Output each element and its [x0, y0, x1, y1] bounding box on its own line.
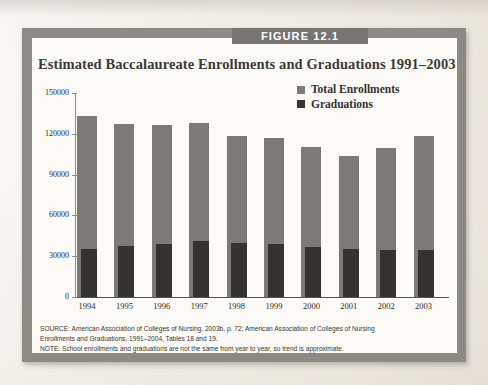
source-note-line-2: Enrollments and Graduations, 1991–2004, … — [40, 334, 445, 344]
bar-graduations[interactable] — [81, 249, 97, 297]
x-axis-tick-label: 2001 — [333, 302, 365, 311]
legend-swatch-graduations — [297, 100, 305, 108]
bar-graduations[interactable] — [380, 250, 396, 297]
y-axis-tick-label: 60000 — [23, 211, 69, 219]
x-axis-tick-label: 1994 — [71, 302, 103, 311]
x-axis-tick-label: 2002 — [370, 302, 402, 311]
chart-legend: Total Enrollments Graduations — [297, 84, 400, 113]
x-axis-tick-label: 1995 — [108, 302, 140, 311]
x-axis-tick-label: 1996 — [146, 302, 178, 311]
bar-graduations[interactable] — [418, 250, 434, 297]
page-scan-smudge — [0, 0, 488, 16]
bar-graduations[interactable] — [343, 249, 359, 297]
bar-graduations[interactable] — [156, 244, 172, 297]
figure-number-banner: FIGURE 12.1 — [232, 28, 368, 44]
x-axis-tick-label: 1998 — [221, 302, 253, 311]
legend-label-total-enrollments: Total Enrollments — [311, 84, 400, 96]
x-axis-tick-label: 1997 — [183, 302, 215, 311]
x-axis-line — [75, 297, 449, 298]
figure-number-label: FIGURE 12.1 — [261, 31, 339, 42]
general-note-line: NOTE: School enrollments and graduations… — [40, 344, 445, 354]
y-axis-tick-label: 90000 — [23, 171, 69, 179]
bar-graduations[interactable] — [231, 243, 247, 297]
x-axis-tick-label: 1999 — [258, 302, 290, 311]
y-axis-tick-mark — [72, 93, 77, 94]
source-note-line-1: SOURCE: American Association of Colleges… — [40, 324, 445, 334]
bar-graduations[interactable] — [193, 241, 209, 297]
x-axis-tick-label: 2003 — [408, 302, 440, 311]
bar-graduations[interactable] — [118, 246, 134, 297]
y-axis-tick-label: 30000 — [23, 252, 69, 260]
bar-graduations[interactable] — [268, 244, 284, 297]
legend-item-total-enrollments[interactable]: Total Enrollments — [297, 84, 400, 96]
legend-label-graduations: Graduations — [311, 99, 373, 111]
y-axis-line — [75, 93, 76, 298]
y-axis-tick-label: 120000 — [23, 130, 69, 138]
chart-title: Estimated Baccalaureate Enrollments and … — [38, 56, 458, 73]
figure-notes: SOURCE: American Association of Colleges… — [40, 324, 445, 354]
y-axis-tick-label: 0 — [23, 293, 69, 301]
bar-graduations[interactable] — [305, 247, 321, 297]
x-axis-tick-label: 2000 — [295, 302, 327, 311]
y-axis-tick-mark — [72, 297, 77, 298]
legend-item-graduations[interactable]: Graduations — [297, 99, 400, 111]
y-axis-tick-label: 150000 — [23, 89, 69, 97]
legend-swatch-total-enrollments — [297, 86, 305, 94]
